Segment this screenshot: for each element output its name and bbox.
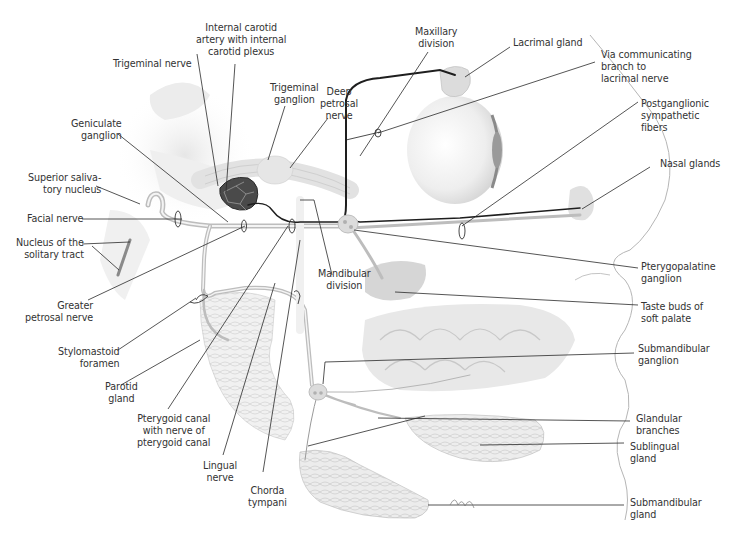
label-stylomastoid: Stylomastoid foramen	[58, 346, 119, 370]
label-sublingual-gland: Sublingual gland	[630, 441, 679, 465]
label-glandular-branches: Glandular branches	[636, 413, 682, 437]
label-internal-carotid: Internal carotid artery with internal ca…	[196, 22, 286, 58]
label-trigeminal-ganglion: Trigeminal ganglion	[270, 82, 319, 106]
label-lingual-nerve: Lingual nerve	[203, 460, 237, 484]
label-chorda-tympani: Chorda tympani	[248, 485, 287, 509]
lip-outline	[575, 273, 610, 280]
label-submandibular-ganglion: Submandibular ganglion	[638, 343, 710, 367]
artist-signature	[450, 500, 474, 508]
label-trigeminal-nerve: Trigeminal nerve	[113, 58, 192, 70]
soft-palate	[365, 261, 426, 300]
anatomy-diagram: Internal carotid artery with internal ca…	[0, 0, 743, 546]
label-pterygoid-canal: Pterygoid canal with nerve of pterygoid …	[137, 413, 210, 449]
label-superior-salivatory: Superior saliva- tory nucleus	[28, 172, 101, 196]
label-maxillary-division: Maxillary division	[415, 26, 457, 50]
label-nasal-glands: Nasal glands	[660, 158, 720, 170]
label-mandibular-division: Mandibular division	[318, 268, 371, 292]
label-pterygopalatine-ganglion: Pterygopalatine ganglion	[641, 261, 715, 285]
eye	[407, 96, 503, 204]
tongue	[362, 304, 575, 391]
label-parotid-gland: Parotid gland	[105, 381, 138, 405]
label-via-communicating: Via communicating branch to lacrimal ner…	[601, 49, 692, 85]
label-facial-nerve: Facial nerve	[27, 213, 83, 225]
label-lacrimal-gland: Lacrimal gland	[513, 37, 582, 49]
label-nucleus-solitary: Nucleus of the solitary tract	[16, 237, 84, 261]
label-taste-buds: Taste buds of soft palate	[641, 301, 703, 325]
label-deep-petrosal: Deep petrosal nerve	[320, 86, 358, 122]
label-submandibular-gland: Submandibular gland	[630, 497, 702, 521]
submandibular-ganglion-shape	[309, 384, 327, 400]
label-postganglionic: Postganglionic sympathetic fibers	[641, 98, 709, 134]
label-geniculate-ganglion: Geniculate ganglion	[71, 118, 122, 142]
label-greater-petrosal: Greater petrosal nerve	[25, 300, 93, 324]
